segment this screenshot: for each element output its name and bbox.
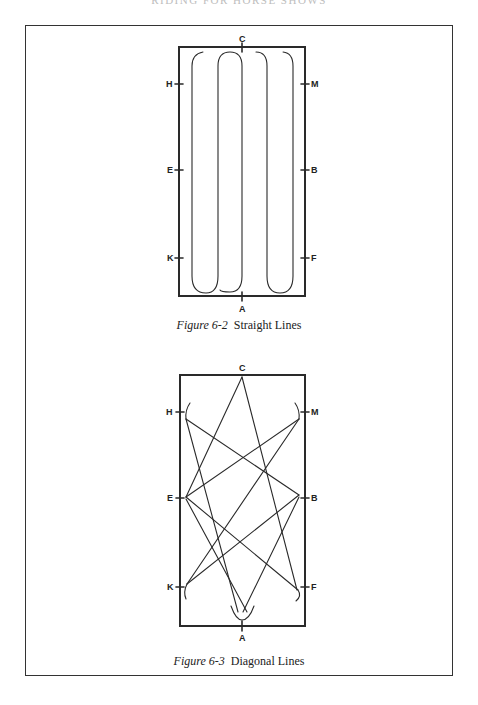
straight-line-tracks — [192, 52, 293, 293]
figure-caption: Figure 6-3Diagonal Lines — [0, 654, 478, 669]
marker-h: H — [166, 407, 173, 417]
marker-a: A — [239, 304, 246, 314]
marker-a: A — [239, 633, 246, 643]
marker-c: C — [239, 363, 246, 373]
marker-m: M — [311, 79, 319, 89]
caption-title: Diagonal Lines — [231, 654, 305, 668]
marker-b: B — [311, 493, 318, 503]
caption-number: Figure 6-2 — [177, 318, 228, 332]
marker-f: F — [311, 582, 317, 592]
arena-diagrams: C A H E K M B F C A H E K M B F — [0, 0, 478, 705]
marker-k: K — [167, 582, 174, 592]
figure-caption: Figure 6-2Straight Lines — [0, 318, 478, 333]
marker-h: H — [166, 79, 173, 89]
marker-e: E — [167, 493, 173, 503]
marker-e: E — [167, 165, 173, 175]
marker-b: B — [311, 165, 318, 175]
marker-f: F — [311, 253, 317, 263]
marker-c: C — [239, 34, 246, 44]
caption-number: Figure 6-3 — [174, 654, 225, 668]
marker-m: M — [311, 407, 319, 417]
caption-title: Straight Lines — [234, 318, 302, 332]
marker-k: K — [167, 253, 174, 263]
diagonal-line-tracks — [185, 377, 300, 620]
